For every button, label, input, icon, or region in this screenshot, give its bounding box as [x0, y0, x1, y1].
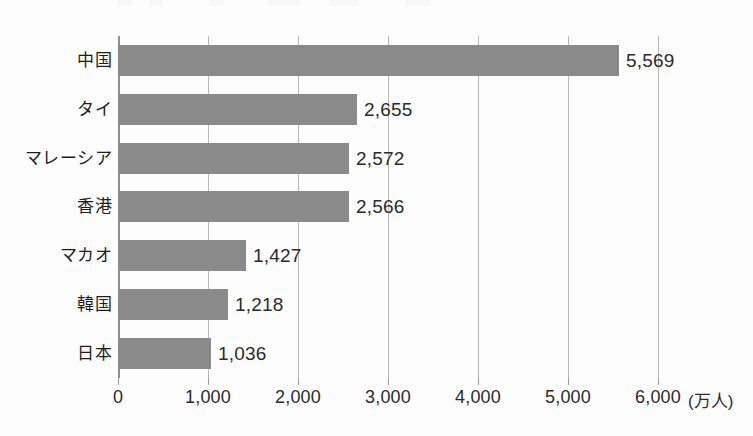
- bar-chart-figure: 中国タイマレーシア香港マカオ韓国日本 5,5692,6552,5722,5661…: [0, 0, 753, 436]
- bar-row[interactable]: 2,655: [118, 94, 658, 125]
- bar-row[interactable]: 1,036: [118, 338, 658, 369]
- bar-value-label: 1,218: [235, 294, 284, 316]
- bar-value-label: 2,566: [356, 196, 405, 218]
- x-axis-tick: [568, 378, 569, 385]
- x-axis-tick-label: 1,000: [185, 387, 231, 408]
- bar-row[interactable]: 1,218: [118, 289, 658, 320]
- bar-value-label: 2,655: [364, 99, 413, 121]
- x-axis-tick: [118, 378, 119, 385]
- category-axis: 中国タイマレーシア香港マカオ韓国日本: [0, 36, 112, 378]
- category-label: マレーシア: [25, 143, 113, 174]
- bar[interactable]: [118, 191, 349, 222]
- x-axis-tick-label: 6,000: [635, 387, 681, 408]
- bar[interactable]: [118, 143, 349, 174]
- bar[interactable]: [118, 338, 211, 369]
- bar-row[interactable]: 1,427: [118, 240, 658, 271]
- bar-row[interactable]: 2,572: [118, 143, 658, 174]
- category-label: 日本: [77, 338, 112, 369]
- x-axis-tick: [298, 378, 299, 385]
- x-axis-tick-label: 5,000: [545, 387, 591, 408]
- bar-value-label: 2,572: [356, 148, 405, 170]
- plot-area: 5,5692,6552,5722,5661,4271,2181,036: [118, 36, 658, 378]
- x-axis-tick: [388, 378, 389, 385]
- bar-value-label: 1,427: [253, 245, 302, 267]
- bar-value-label: 5,569: [626, 50, 675, 72]
- x-axis-tick: [208, 378, 209, 385]
- gridline-6000: [658, 36, 659, 378]
- bar[interactable]: [118, 240, 246, 271]
- x-axis-tick-label: 2,000: [275, 387, 321, 408]
- bar[interactable]: [118, 289, 228, 320]
- bar-row[interactable]: 2,566: [118, 191, 658, 222]
- bar[interactable]: [118, 94, 357, 125]
- bar-value-label: 1,036: [218, 343, 267, 365]
- x-axis-tick-label: 4,000: [455, 387, 501, 408]
- x-axis-tick-label: 0: [113, 387, 123, 408]
- category-label: タイ: [77, 94, 112, 125]
- x-axis-tick-label: 3,000: [365, 387, 411, 408]
- x-axis-unit-label: (万人): [688, 387, 733, 412]
- scan-artifact: [0, 0, 753, 6]
- category-label: 韓国: [77, 289, 112, 320]
- bar-row[interactable]: 5,569: [118, 45, 658, 76]
- category-label: マカオ: [60, 240, 113, 271]
- bar[interactable]: [118, 45, 619, 76]
- category-label: 香港: [77, 191, 112, 222]
- x-axis-tick: [658, 378, 659, 385]
- x-axis-tick: [478, 378, 479, 385]
- category-label: 中国: [77, 45, 112, 76]
